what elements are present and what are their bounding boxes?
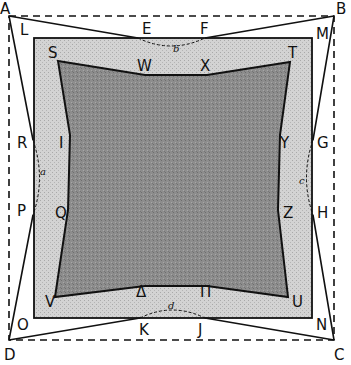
point-label-c: C xyxy=(334,346,344,364)
point-label-t: T xyxy=(287,44,298,62)
point-label-z: Z xyxy=(283,204,293,222)
arc-label-c: c xyxy=(299,175,305,186)
point-label-q: Q xyxy=(55,204,67,222)
point-label-a: A xyxy=(0,0,11,18)
geometry-diagram: ABCDLEFMSWXTRIYGPQZHVΔΠUOKJN bacd xyxy=(0,0,351,365)
point-label-j: J xyxy=(197,321,202,339)
point-label-b: B xyxy=(336,0,346,18)
inner-curved-square xyxy=(55,61,290,297)
point-label-o: O xyxy=(17,316,29,334)
point-label-v: V xyxy=(45,293,56,311)
point-label-r: R xyxy=(17,134,27,152)
point-label-g: G xyxy=(317,134,329,152)
point-label-d: D xyxy=(4,346,16,364)
point-label-i: I xyxy=(59,134,63,152)
point-label-π: Π xyxy=(200,283,211,301)
point-label-f: F xyxy=(200,20,209,38)
point-label-e: E xyxy=(142,20,151,38)
point-label-δ: Δ xyxy=(136,283,147,301)
point-label-l: L xyxy=(20,21,29,39)
arc-label-b: b xyxy=(173,43,179,54)
point-label-w: W xyxy=(137,57,152,75)
point-label-x: X xyxy=(200,57,210,75)
point-label-k: K xyxy=(139,321,150,339)
point-label-p: P xyxy=(17,202,26,220)
point-label-n: N xyxy=(316,316,327,334)
point-label-m: M xyxy=(316,25,329,43)
point-label-u: U xyxy=(292,293,303,311)
point-label-h: H xyxy=(317,204,328,222)
arc-label-a: a xyxy=(40,166,46,177)
point-label-s: S xyxy=(48,44,58,62)
point-label-y: Y xyxy=(279,134,290,152)
arc-label-d: d xyxy=(168,300,174,311)
